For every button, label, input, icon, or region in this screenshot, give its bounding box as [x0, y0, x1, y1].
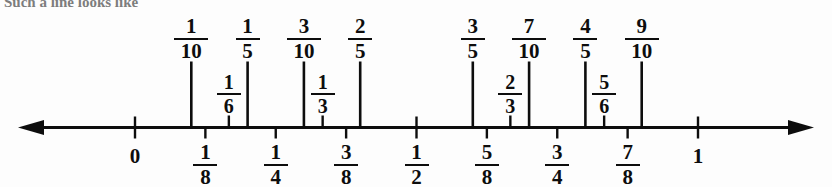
label-3-over-10-denominator: 10: [287, 40, 321, 62]
label-1-over-4-numerator: 1: [264, 142, 288, 166]
label-2-over-3-denominator: 3: [498, 95, 522, 116]
label-1-over-10: 110: [174, 16, 208, 62]
label-1-over-8: 18: [193, 142, 217, 187]
left-arrowhead: [18, 120, 44, 135]
label-5-over-6-denominator: 6: [592, 95, 616, 116]
label-1-over-6-denominator: 6: [217, 95, 241, 116]
label-3-over-4-numerator: 3: [545, 142, 569, 166]
label-9-over-10: 910: [625, 16, 659, 62]
label-9-over-10-denominator: 10: [625, 40, 659, 62]
label-2-over-5-numerator: 2: [348, 16, 372, 40]
label-1-over-3: 13: [311, 72, 335, 116]
label-3-over-5-numerator: 3: [461, 16, 485, 40]
label-3-over-10-numerator: 3: [287, 16, 321, 40]
label-1-over-5-denominator: 5: [236, 40, 260, 62]
label-3-over-4-denominator: 4: [545, 166, 569, 187]
label-1-over-6-numerator: 1: [217, 72, 241, 95]
label-1-over-5: 15: [236, 16, 260, 62]
label-3-over-5: 35: [461, 16, 485, 62]
label-1: 1: [678, 146, 718, 167]
label-1-over-8-denominator: 8: [193, 166, 217, 187]
label-3-over-5-denominator: 5: [461, 40, 485, 62]
label-3-over-8-denominator: 8: [334, 166, 358, 187]
label-4-over-5-denominator: 5: [573, 40, 597, 62]
label-3-over-8-numerator: 3: [334, 142, 358, 166]
right-arrowhead: [788, 120, 814, 135]
label-1-over-2: 12: [405, 142, 429, 187]
label-1-over-3-denominator: 3: [311, 95, 335, 116]
label-1-over-4-denominator: 4: [264, 166, 288, 187]
label-7-over-10: 710: [512, 16, 546, 62]
label-4-over-5: 45: [573, 16, 597, 62]
label-5-over-8-numerator: 5: [475, 142, 499, 166]
label-3-over-10: 310: [287, 16, 321, 62]
label-5-over-8: 58: [475, 142, 499, 187]
label-7-over-10-numerator: 7: [512, 16, 546, 40]
number-line-figure: Such a line looks like 11015310253571045…: [0, 0, 832, 186]
label-2-over-5: 25: [348, 16, 372, 62]
label-1-over-8-numerator: 1: [193, 142, 217, 166]
label-2-over-5-denominator: 5: [348, 40, 372, 62]
label-1-over-4: 14: [264, 142, 288, 187]
label-9-over-10-numerator: 9: [625, 16, 659, 40]
label-5-over-6-numerator: 5: [592, 72, 616, 95]
label-5-over-8-denominator: 8: [475, 166, 499, 187]
label-1-over-2-numerator: 1: [405, 142, 429, 166]
label-2-over-3-numerator: 2: [498, 72, 522, 95]
label-1-over-10-numerator: 1: [174, 16, 208, 40]
label-7-over-10-denominator: 10: [512, 40, 546, 62]
label-1-over-5-numerator: 1: [236, 16, 260, 40]
label-1-over-10-denominator: 10: [174, 40, 208, 62]
label-3-over-8: 38: [334, 142, 358, 187]
label-1-over-6: 16: [217, 72, 241, 116]
label-1-over-3-numerator: 1: [311, 72, 335, 95]
label-0: 0: [115, 146, 155, 167]
label-7-over-8-numerator: 7: [616, 142, 640, 166]
label-3-over-4: 34: [545, 142, 569, 187]
label-2-over-3: 23: [498, 72, 522, 116]
label-1-over-2-denominator: 2: [405, 166, 429, 187]
label-4-over-5-numerator: 4: [573, 16, 597, 40]
label-5-over-6: 56: [592, 72, 616, 116]
label-7-over-8: 78: [616, 142, 640, 187]
label-7-over-8-denominator: 8: [616, 166, 640, 187]
